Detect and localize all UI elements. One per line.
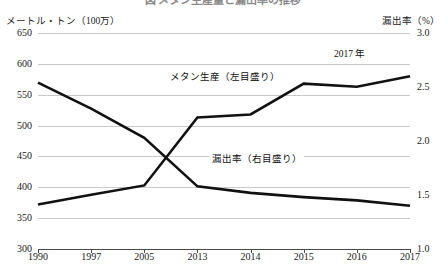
plot-area: 300350400450500550600650 1.01.52.02.53.0… — [38, 33, 410, 249]
figure-title: 図 メタン生産量と漏出率の推移 — [0, 0, 446, 7]
series-line-production — [38, 76, 410, 204]
right-axis-tick-label: 2.0 — [417, 136, 430, 146]
left-axis-tick-label: 600 — [17, 59, 32, 69]
right-axis-tick-label: 2.5 — [417, 82, 430, 92]
left-axis-tick-label: 450 — [17, 151, 32, 161]
chart-figure: 図 メタン生産量と漏出率の推移 メートル・トン（100万） 漏出率（%） 300… — [0, 0, 446, 276]
x-axis-tick-label: 2016 — [347, 252, 367, 262]
right-axis-unit-caption: 漏出率（%） — [382, 13, 440, 27]
x-axis-tick-label: 2005 — [134, 252, 154, 262]
annotation-leakage-label: 漏出率（右目盛り） — [210, 151, 304, 165]
annotation-year-mark: 2017 年 — [332, 46, 367, 60]
left-axis-tick-label: 500 — [17, 121, 32, 131]
right-axis-tick-label: 1.5 — [417, 190, 430, 200]
series-lines — [38, 33, 410, 249]
figure-title-strip: 図 メタン生産量と漏出率の推移 — [0, 0, 446, 9]
left-axis-tick-label: 550 — [17, 90, 32, 100]
x-axis-tick-label: 2014 — [241, 252, 261, 262]
x-axis-tick-label: 2015 — [294, 252, 314, 262]
left-axis-tick-label: 400 — [17, 182, 32, 192]
annotation-production-label: メタン生産（左目盛り） — [168, 69, 282, 83]
x-axis-tick-label: 1990 — [28, 252, 48, 262]
x-axis-tick-label: 2013 — [187, 252, 207, 262]
series-line-leakage — [38, 83, 410, 206]
left-axis-tick-label: 650 — [17, 28, 32, 38]
gridline — [38, 249, 410, 250]
left-axis-tick-label: 350 — [17, 213, 32, 223]
left-axis-unit-caption: メートル・トン（100万） — [6, 13, 120, 27]
x-axis-tick-label: 1997 — [81, 252, 101, 262]
right-axis-tick-label: 3.0 — [417, 28, 430, 38]
x-axis-tick-label: 2017 — [400, 252, 420, 262]
